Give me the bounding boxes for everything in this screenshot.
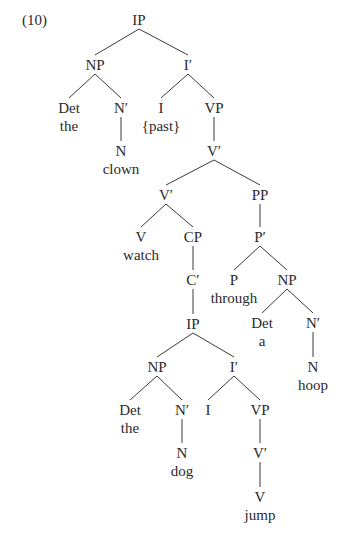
edge-np3-det3 bbox=[130, 376, 157, 400]
node-pbar1: P′ bbox=[254, 229, 266, 245]
edge-ibar2-i2 bbox=[208, 376, 234, 400]
node-np2: NP bbox=[277, 272, 296, 288]
node-np3: NP bbox=[147, 359, 166, 375]
word-n2: hoop bbox=[298, 377, 328, 393]
edge-ip2-ibar2 bbox=[193, 333, 234, 357]
node-i2: I bbox=[206, 402, 211, 418]
edge-np1-det1 bbox=[69, 74, 95, 98]
node-i1: I bbox=[159, 100, 164, 116]
node-det2: Det bbox=[251, 315, 273, 331]
edge-vbar2-cp1 bbox=[166, 204, 193, 227]
node-v1: V bbox=[136, 229, 147, 245]
edge-np3-nbar3 bbox=[157, 376, 182, 400]
node-ibar1: I′ bbox=[184, 57, 192, 73]
word-det1: the bbox=[60, 118, 78, 134]
word-n3: dog bbox=[171, 463, 194, 479]
node-vbar2: V′ bbox=[159, 187, 173, 203]
node-det1: Det bbox=[58, 100, 80, 116]
word-det3: the bbox=[121, 420, 139, 436]
node-np1: NP bbox=[85, 57, 104, 73]
node-vp2: VP bbox=[250, 402, 269, 418]
node-nbar1: N′ bbox=[114, 100, 128, 116]
edge-vbar1-vbar2 bbox=[166, 160, 214, 185]
node-ibar2: I′ bbox=[230, 359, 238, 375]
edge-ip2-np3 bbox=[157, 333, 193, 357]
edge-ip1-np1 bbox=[95, 29, 139, 55]
node-vp1: VP bbox=[204, 100, 223, 116]
word-v1: watch bbox=[123, 247, 159, 263]
node-vbar3: V′ bbox=[253, 445, 267, 461]
node-cbar1: C′ bbox=[186, 272, 199, 288]
edge-np2-det2 bbox=[262, 289, 287, 313]
word-p1: through bbox=[211, 290, 258, 306]
edge-ip1-ibar1 bbox=[139, 29, 188, 55]
node-n2: N bbox=[308, 359, 319, 375]
node-nbar3: N′ bbox=[175, 402, 189, 418]
word-n1: clown bbox=[103, 161, 140, 177]
node-ip1: IP bbox=[132, 12, 145, 28]
word-det2: a bbox=[259, 333, 266, 349]
node-cp1: CP bbox=[184, 229, 202, 245]
edge-np2-nbar2 bbox=[287, 289, 313, 313]
edge-pbar1-np2 bbox=[260, 246, 287, 270]
node-nbar2: N′ bbox=[306, 315, 320, 331]
edge-vbar1-pp1 bbox=[214, 160, 260, 185]
node-ip2: IP bbox=[186, 316, 199, 332]
word-v2: jump bbox=[245, 507, 276, 523]
node-vbar1: V′ bbox=[207, 143, 221, 159]
edge-ibar1-i1 bbox=[161, 74, 188, 98]
edge-pbar1-p1 bbox=[234, 246, 260, 270]
tree-edges bbox=[0, 0, 345, 539]
edge-ibar1-vp1 bbox=[188, 74, 214, 98]
node-det3: Det bbox=[119, 402, 141, 418]
edge-vbar2-v1 bbox=[141, 204, 166, 227]
node-n3: N bbox=[177, 445, 188, 461]
word-i1: {past} bbox=[142, 118, 181, 134]
edge-np1-nbar1 bbox=[95, 74, 121, 98]
node-pp1: PP bbox=[252, 187, 269, 203]
edge-ibar2-vp2 bbox=[234, 376, 260, 400]
node-n1: N bbox=[116, 143, 127, 159]
node-v2: V bbox=[255, 489, 266, 505]
node-p1: P bbox=[230, 272, 238, 288]
